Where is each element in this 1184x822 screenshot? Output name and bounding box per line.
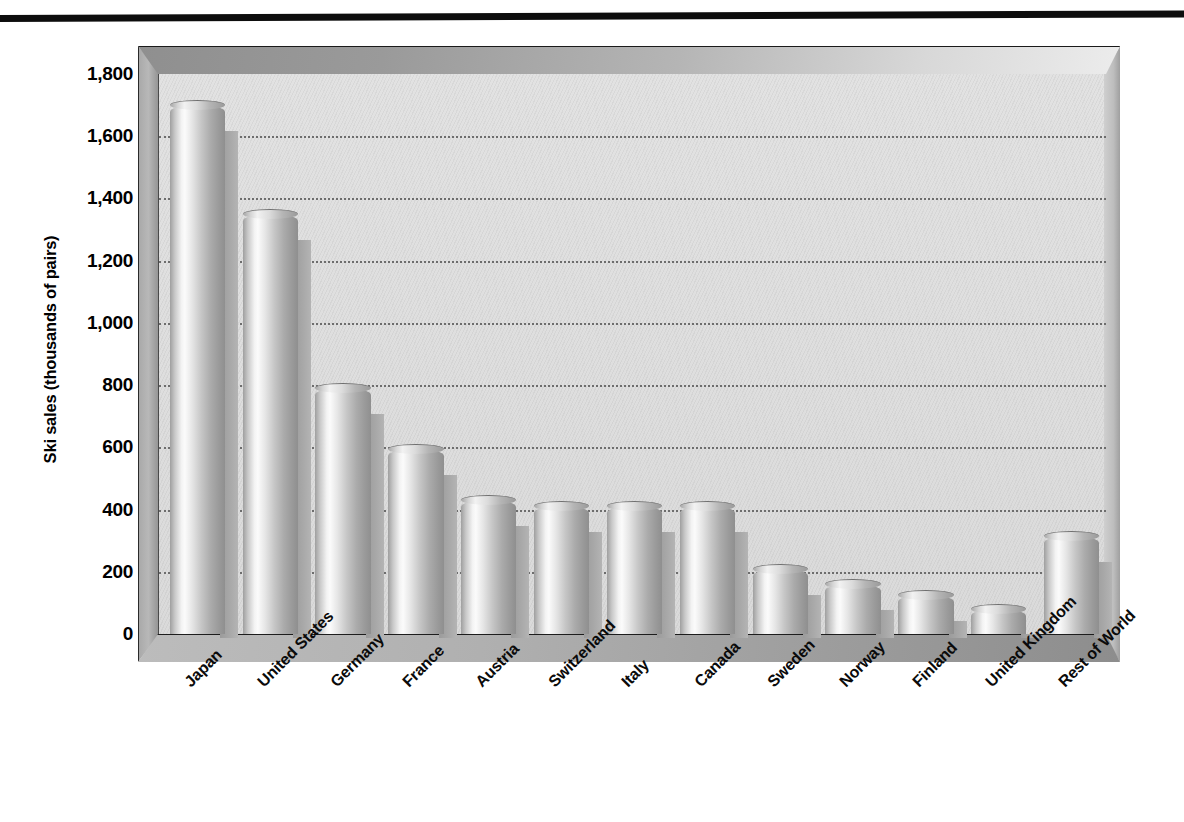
bar-top-cap <box>971 604 1026 614</box>
bar-body <box>753 569 808 634</box>
bar[interactable] <box>898 595 953 634</box>
bar-top-cap <box>680 501 735 511</box>
bar-body <box>315 388 370 634</box>
bar[interactable] <box>170 105 225 634</box>
y-axis-tick-label: 800 <box>59 375 133 394</box>
bar[interactable] <box>461 500 516 634</box>
bar-top-cap <box>898 590 953 600</box>
bar-top-cap <box>315 383 370 393</box>
bar-top-cap <box>243 209 298 219</box>
plot-ceiling <box>138 46 1120 74</box>
y-axis-tick-labels: 1,8001,6001,4001,2001,0008006004002000 <box>48 30 133 650</box>
y-axis-tick-label: 600 <box>59 437 133 456</box>
y-axis-tick-label: 200 <box>59 562 133 581</box>
bar-body <box>680 506 735 634</box>
bar-top-cap <box>388 444 443 454</box>
x-axis-tick-labels: JapanUnited StatesGermanyFranceAustriaSw… <box>138 670 1138 800</box>
bar-body <box>461 500 516 634</box>
bar[interactable] <box>315 388 370 634</box>
bar[interactable] <box>607 506 662 634</box>
bar-top-cap <box>607 501 662 511</box>
bar-top-cap <box>825 579 880 589</box>
bar-top-cap <box>753 564 808 574</box>
y-axis-tick-label: 1,600 <box>59 126 133 145</box>
y-axis-tick-label: 1,000 <box>59 313 133 332</box>
bar-top-cap <box>461 495 516 505</box>
bar-body <box>534 506 589 634</box>
bar[interactable] <box>753 569 808 634</box>
bar[interactable] <box>971 609 1026 634</box>
plot-left-wall <box>138 46 160 662</box>
bar-body <box>607 506 662 634</box>
bar[interactable] <box>388 449 443 634</box>
top-horizontal-rule <box>0 10 1184 22</box>
bar-series <box>159 74 1106 634</box>
bar[interactable] <box>534 506 589 634</box>
y-axis-tick-label: 1,400 <box>59 188 133 207</box>
bar[interactable] <box>825 584 880 634</box>
y-axis-tick-label: 400 <box>59 500 133 519</box>
y-axis-tick-label: 1,800 <box>59 64 133 83</box>
bar[interactable] <box>243 214 298 634</box>
bar-top-cap <box>534 501 589 511</box>
bar-top-cap <box>1044 531 1099 541</box>
bar-body <box>243 214 298 634</box>
plot-3d-box <box>138 46 1120 662</box>
bar[interactable] <box>680 506 735 634</box>
y-axis-tick-label: 0 <box>59 624 133 643</box>
bar-body <box>971 609 1026 634</box>
plot-area <box>159 74 1106 634</box>
bar-top-cap <box>170 100 225 110</box>
bar-body <box>170 105 225 634</box>
bar-body <box>825 584 880 634</box>
y-axis-tick-label: 1,200 <box>59 251 133 270</box>
ski-sales-bar-chart: Ski sales (thousands of pairs) 1,8001,60… <box>0 30 1184 790</box>
bar-body <box>388 449 443 634</box>
bar-body <box>898 595 953 634</box>
